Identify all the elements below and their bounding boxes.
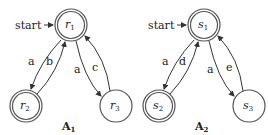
svg-text:r1: r1 [65,18,75,32]
state-sub: 1 [70,24,74,32]
automaton-title: A [61,120,71,133]
state-sub: 2 [159,105,163,113]
state-sub: 2 [25,105,29,113]
transition-s2-s1 [170,42,198,94]
transition-label: c [92,61,98,74]
transition-label: a [74,63,81,76]
start-label: start [148,19,175,32]
transition-label: a [207,63,214,76]
transition-label: b [46,55,53,68]
transition-label: d [179,55,186,68]
automata-diagram: start r1 r2 r3 a b a c A1 star [0,0,268,135]
transition-label: a [162,55,169,68]
automaton-a1: start r1 r2 r3 a b a c A1 [10,9,132,134]
automaton-title-sub: 1 [71,125,76,134]
svg-text:A1: A1 [61,120,76,134]
svg-text:s1: s1 [198,18,208,32]
start-label: start [15,19,42,32]
state-r1: r1 [55,9,87,41]
state-sub: 1 [204,24,208,32]
state-sub: 3 [115,105,119,113]
state-s1: s1 [188,9,220,41]
transition-r2-r1 [37,42,65,94]
transition-label: a [28,55,35,68]
svg-text:r2: r2 [20,99,30,113]
svg-text:A2: A2 [194,120,209,134]
state-s2: s2 [143,90,175,122]
automaton-title-sub: 2 [204,125,209,134]
state-sub: 3 [249,105,253,113]
svg-text:s2: s2 [153,99,163,113]
svg-text:r3: r3 [110,99,120,113]
svg-text:s3: s3 [243,99,253,113]
state-r3: r3 [100,90,132,122]
automaton-a2: start s1 s2 s3 a d a e A2 [143,9,265,134]
state-s3: s3 [233,90,265,122]
transition-label: e [226,61,233,74]
state-r2: r2 [10,90,42,122]
automaton-title: A [194,120,204,133]
